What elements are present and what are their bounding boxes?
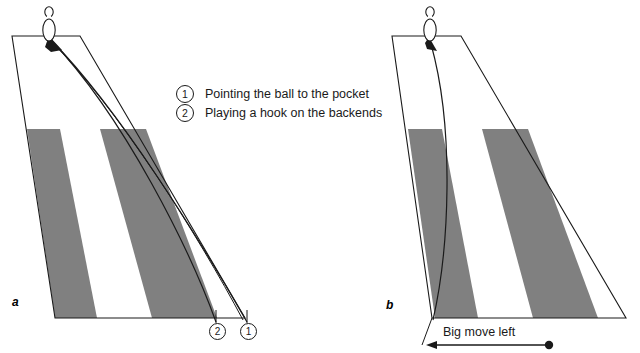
panel-a [12, 7, 247, 323]
legend-label-2: Playing a hook on the backends [205, 106, 382, 120]
oil-band-b-right [482, 129, 598, 318]
path-marker-1: 1 [240, 323, 257, 340]
legend-number-2: 2 [176, 104, 194, 122]
big-move-left-arrow [426, 341, 553, 349]
bowling-pin-b [424, 7, 436, 41]
bowling-lane-diagram [0, 0, 640, 353]
panel-b [392, 7, 626, 349]
oil-band-a-left [27, 129, 97, 318]
move-leader-line [422, 318, 432, 345]
legend-number-1: 1 [176, 85, 194, 103]
big-move-left-label: Big move left [443, 325, 515, 339]
panel-label-b: b [386, 298, 393, 312]
bowling-pin-a [43, 7, 55, 41]
legend-label-1: Pointing the ball to the pocket [205, 87, 369, 101]
path-marker-2: 2 [209, 323, 226, 340]
oil-band-a-right [100, 129, 217, 318]
legend: 1 Pointing the ball to the pocket 2 Play… [176, 84, 416, 122]
legend-item-1: 1 Pointing the ball to the pocket [176, 84, 416, 103]
panel-label-a: a [12, 295, 19, 309]
legend-item-2: 2 Playing a hook on the backends [176, 103, 416, 122]
